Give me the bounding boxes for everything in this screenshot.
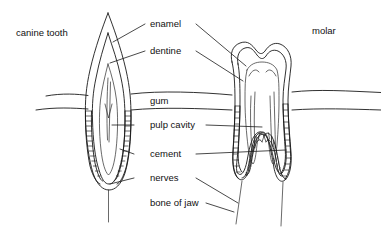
leader-bone-of-jaw	[206, 203, 234, 212]
leader-line-group	[110, 24, 286, 212]
label-dentine: dentine	[150, 45, 181, 56]
molar-pulp-horn-left	[249, 70, 259, 76]
gum-upper-middle	[131, 92, 232, 95]
label-gum: gum	[150, 95, 169, 106]
leader-cement-left	[120, 149, 134, 154]
leader-enamel-right	[196, 24, 246, 66]
gum-lower-left-outer	[36, 108, 88, 110]
leader-nerves-right	[196, 178, 238, 203]
leader-enamel-left	[113, 24, 145, 42]
molar-pulp-horn-right	[266, 70, 276, 76]
label-bone-of-jaw: bone of jaw	[150, 197, 199, 208]
canine-pulp-horn	[105, 104, 112, 118]
label-nerves: nerves	[150, 172, 179, 183]
gum-lower-right	[292, 109, 381, 110]
canine-pulp-cavity	[99, 64, 117, 175]
label-pulp-cavity: pulp cavity	[150, 119, 195, 130]
label-canine-tooth: canine tooth	[16, 27, 68, 38]
leader-dentine-right	[196, 51, 243, 81]
molar-nerve-line-right	[281, 182, 283, 226]
tooth-anatomy-diagram: canine tooth molar enamel dentine gum pu…	[0, 0, 381, 233]
label-enamel: enamel	[150, 18, 181, 29]
molar-cement-outer-left	[233, 106, 242, 178]
gum-lower-middle	[131, 108, 232, 110]
label-cement: cement	[150, 148, 182, 159]
molar-tooth	[231, 42, 291, 226]
gum-upper-left-outer	[46, 94, 88, 96]
gum-line-group	[36, 90, 381, 110]
diagram-canvas: canine tooth molar enamel dentine gum pu…	[0, 0, 381, 233]
gum-upper-right	[292, 90, 381, 92]
canine-dentine-outline	[92, 33, 125, 184]
molar-cement-outer-right	[281, 104, 291, 179]
canine-tooth	[85, 13, 131, 222]
canine-pulp-strand-left	[107, 78, 108, 140]
label-molar: molar	[312, 25, 336, 36]
molar-pulp-strand-4	[274, 92, 276, 148]
